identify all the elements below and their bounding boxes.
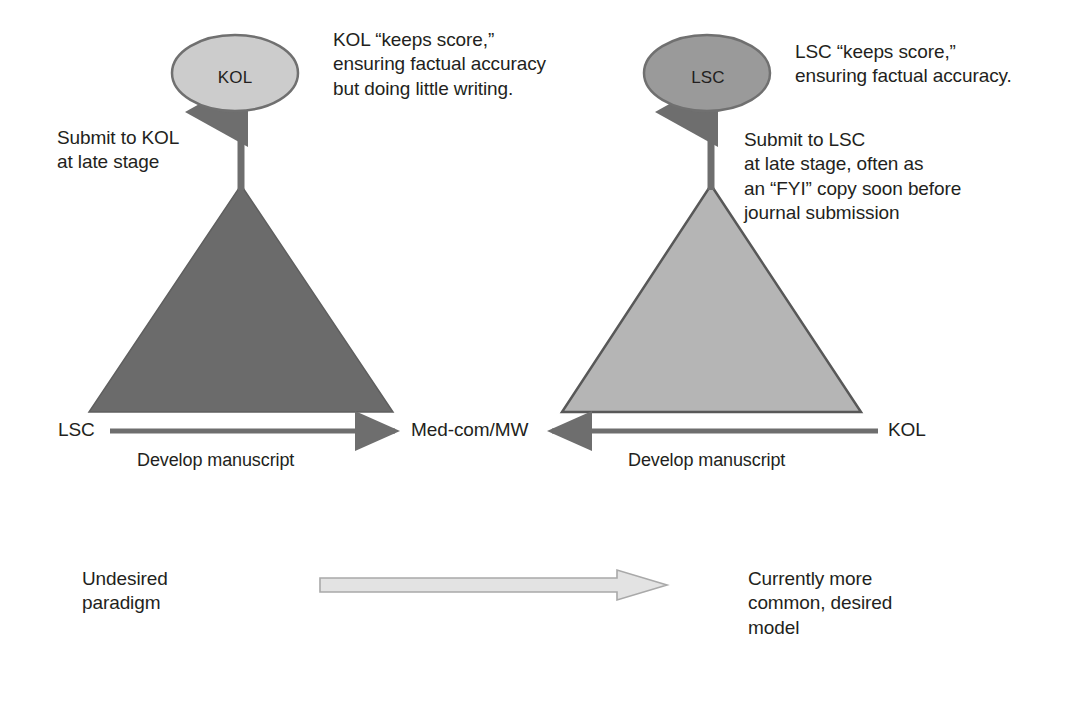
left-triangle-shape [89, 185, 393, 412]
diagram-canvas: KOL LSC KOL “keeps score,” ensuring fact… [0, 0, 1086, 701]
left-callout-text: KOL “keeps score,” ensuring factual accu… [333, 28, 573, 101]
left-axis-caption: Develop manuscript [137, 449, 294, 472]
left-axis-start-label: LSC [58, 418, 95, 442]
left-connector-note: Submit to KOL at late stage [57, 126, 247, 175]
right-callout-text: LSC “keeps score,” ensuring factual accu… [795, 40, 1040, 89]
shared-med-com-mw-label: Med-com/MW [411, 418, 528, 442]
left-ellipse-label: KOL [175, 68, 295, 88]
right-ellipse-label: LSC [648, 68, 768, 88]
right-panel-graphics [552, 35, 878, 431]
right-connector-note: Submit to LSC at late stage, often as an… [744, 128, 1004, 225]
right-axis-end-label: KOL [888, 418, 926, 442]
paradigm-shift-arrow-icon [320, 570, 667, 600]
left-paradigm-legend: Undesired paradigm [82, 567, 292, 616]
right-paradigm-legend: Currently more common, desired model [748, 567, 978, 640]
right-axis-caption: Develop manuscript [628, 449, 785, 472]
